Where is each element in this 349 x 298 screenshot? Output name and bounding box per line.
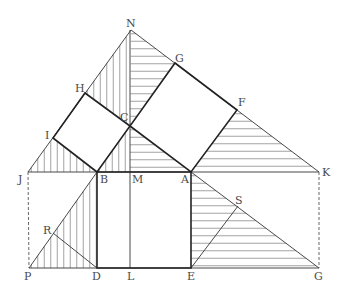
label-f: F xyxy=(238,96,246,109)
geometry-figure: N G F H C I J B M A K S R P D L E G xyxy=(0,0,349,298)
label-a: A xyxy=(180,173,190,186)
square-bdea xyxy=(97,172,191,268)
label-g-top: G xyxy=(175,52,184,65)
label-r: R xyxy=(43,224,52,237)
hatch-triangle-bcm xyxy=(99,124,125,173)
label-k: K xyxy=(322,166,331,179)
label-s: S xyxy=(235,194,243,207)
label-d: D xyxy=(92,270,101,283)
label-j: J xyxy=(17,173,22,186)
hatch-triangle-ncg xyxy=(129,34,177,124)
hatch-triangle-aeg xyxy=(190,176,320,266)
dashed-line-j-p xyxy=(28,172,29,268)
line-e-s xyxy=(191,206,238,268)
diagram-canvas: N G F H C I J B M A K S R P D L E G xyxy=(0,0,349,298)
label-c: C xyxy=(120,111,128,124)
line-a-g xyxy=(191,172,319,268)
label-b: B xyxy=(100,173,108,186)
label-h: H xyxy=(75,82,85,95)
square-cafg xyxy=(130,63,237,172)
label-n: N xyxy=(126,17,136,30)
label-e: E xyxy=(187,270,195,283)
label-i: I xyxy=(45,129,49,142)
label-l: L xyxy=(127,270,135,283)
line-p-b xyxy=(29,172,97,268)
line-r-d xyxy=(53,233,97,268)
label-g-bottom: G xyxy=(314,270,323,283)
label-m: M xyxy=(132,173,143,186)
label-p: P xyxy=(24,270,32,283)
